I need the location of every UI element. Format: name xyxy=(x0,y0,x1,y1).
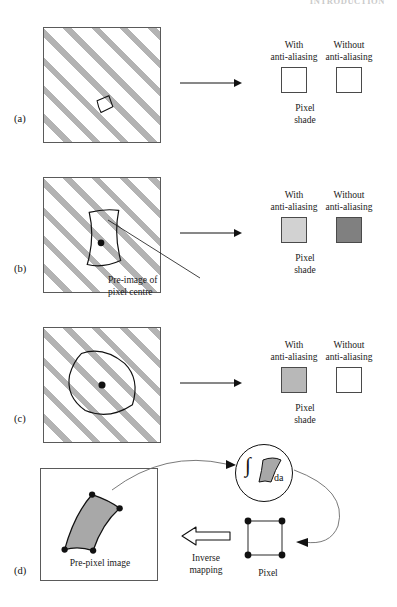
panel-c-label: (c) xyxy=(14,413,26,424)
panel-a-label: (a) xyxy=(14,113,26,124)
corner-dot xyxy=(90,547,96,553)
panel-b-without-caption: Without anti-aliasing xyxy=(303,190,395,213)
inverse-mapping-arrow xyxy=(180,524,232,548)
panel-a-pixel-shade-label: Pixel shade xyxy=(270,103,340,126)
panel-d-label: (d) xyxy=(14,565,26,576)
panel-a-shape-overlay xyxy=(44,28,160,142)
panel-c-pixel-shade-label: Pixel shade xyxy=(270,403,340,426)
panel-a-without-caption: Without anti-aliasing xyxy=(303,40,395,63)
pixel-corner-dot xyxy=(279,552,286,559)
panel-a-mapping-arrow xyxy=(180,76,242,90)
panel-c-shape-overlay xyxy=(44,328,160,442)
panel-b-pixel-shade-label: Pixel shade xyxy=(270,253,340,276)
pre-pixel-image-shape xyxy=(65,495,120,551)
pre-image-shape-tiny xyxy=(97,96,113,113)
corner-dot xyxy=(89,491,95,497)
panel-b-annotation: Pre-image of pixel centre xyxy=(108,275,157,298)
pre-pixel-image-caption: Pre-pixel image xyxy=(41,558,159,568)
prepixel-to-integral-curve xyxy=(110,448,240,498)
corner-dot xyxy=(116,505,122,511)
panel-b-with-swatch xyxy=(281,217,307,243)
panel-a-scene-box xyxy=(43,27,161,143)
panel-c-without-caption: Without anti-aliasing xyxy=(303,340,395,363)
panel-c-scene-box xyxy=(43,327,161,443)
panel-b-label: (b) xyxy=(14,263,26,274)
inverse-mapping-label: Inverse mapping xyxy=(166,553,246,576)
corner-dot xyxy=(61,546,67,552)
panel-b-leader-line xyxy=(100,210,210,285)
pixel-square xyxy=(240,515,296,567)
panel-c-without-swatch xyxy=(336,367,362,393)
panel-b-without-swatch xyxy=(336,217,362,243)
figure-page: INTRODUCTION (a) With anti-aliasing With… xyxy=(0,0,397,607)
panel-c: (c) With anti-aliasing Without anti-alia… xyxy=(0,300,397,450)
integral-symbol: ∫ xyxy=(245,455,251,476)
panel-c-mapping-arrow xyxy=(180,376,242,390)
integral-differential: da xyxy=(274,473,283,483)
panel-d: (d) Pre-pixel image ∫ da xyxy=(0,440,397,607)
panel-c-with-swatch xyxy=(281,367,307,393)
panel-a-without-swatch xyxy=(336,67,362,93)
panel-b: (b) Pre-image of pixel centre With anti-… xyxy=(0,150,397,300)
pixel-corner-dot xyxy=(245,518,252,525)
pixel-centre-dot xyxy=(98,381,105,388)
panel-a-with-swatch xyxy=(281,67,307,93)
panel-a: (a) With anti-aliasing Without anti-alia… xyxy=(0,0,397,150)
integral-to-pixel-curve xyxy=(286,464,366,556)
pixel-corner-dot xyxy=(279,518,286,525)
